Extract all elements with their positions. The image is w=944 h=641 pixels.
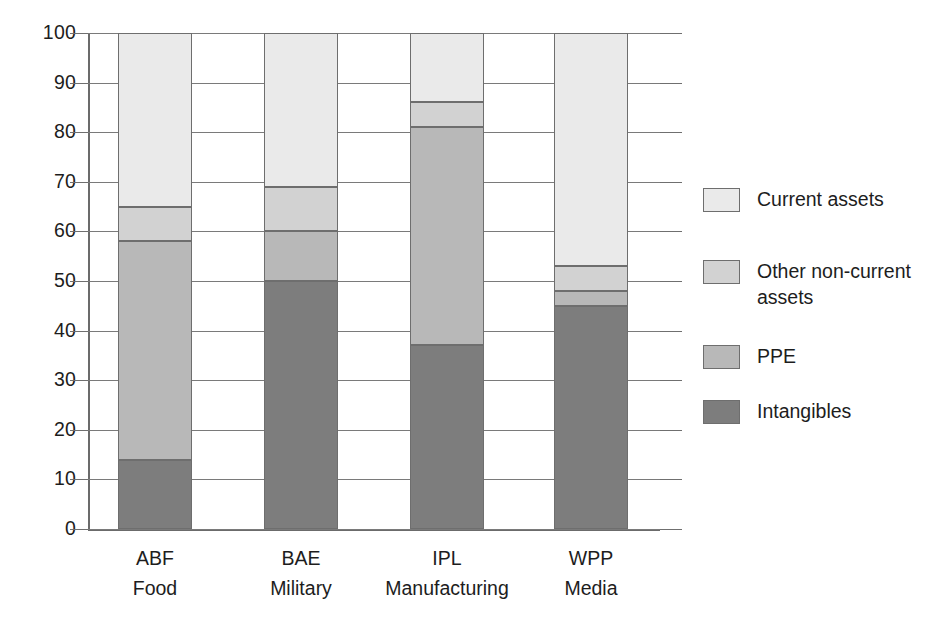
legend-label: Other non-current assets xyxy=(757,258,929,310)
y-tick-label: 30 xyxy=(18,370,76,390)
bar-column[interactable] xyxy=(118,33,192,529)
bar-segment[interactable] xyxy=(554,33,628,266)
y-tick-mark-inner xyxy=(70,479,88,480)
y-tick-label: 60 xyxy=(18,222,76,242)
bar-column[interactable] xyxy=(554,33,628,529)
bar-segment[interactable] xyxy=(264,231,338,281)
bar-segment[interactable] xyxy=(118,207,192,242)
legend-label: Intangibles xyxy=(757,398,851,424)
bar-segment[interactable] xyxy=(410,127,484,345)
y-tick-mark xyxy=(660,33,682,34)
legend-swatch xyxy=(703,345,740,369)
bar-segment[interactable] xyxy=(410,33,484,102)
y-tick-label: 50 xyxy=(18,271,76,291)
bar-column[interactable] xyxy=(410,33,484,529)
bar-segment[interactable] xyxy=(118,460,192,529)
y-tick-mark-inner xyxy=(70,83,88,84)
stacked-bar-chart: 1009080706050403020100 ABFFoodBAEMilitar… xyxy=(0,0,944,641)
bar-segment[interactable] xyxy=(118,241,192,459)
y-tick-mark xyxy=(660,479,682,480)
legend-label: PPE xyxy=(757,343,796,369)
y-tick-mark xyxy=(660,132,682,133)
bars-layer xyxy=(88,33,660,531)
bar-column[interactable] xyxy=(264,33,338,529)
legend-item[interactable]: PPE xyxy=(703,343,796,369)
y-axis-tick-labels: 1009080706050403020100 xyxy=(18,33,76,531)
y-tick-mark xyxy=(660,231,682,232)
y-tick-mark xyxy=(660,281,682,282)
bar-segment[interactable] xyxy=(554,306,628,529)
y-tick-label: 20 xyxy=(18,420,76,440)
y-tick-mark xyxy=(660,430,682,431)
legend-label: Current assets xyxy=(757,186,884,212)
y-tick-mark xyxy=(660,182,682,183)
y-tick-mark-inner xyxy=(70,231,88,232)
bar-segment[interactable] xyxy=(118,33,192,207)
legend-item[interactable]: Current assets xyxy=(703,186,884,212)
bar-segment[interactable] xyxy=(554,291,628,306)
x-axis-category-sector: Media xyxy=(496,573,686,603)
bar-segment[interactable] xyxy=(410,345,484,529)
y-tick-mark-inner xyxy=(70,281,88,282)
bar-segment[interactable] xyxy=(264,33,338,187)
y-tick-label: 100 xyxy=(18,23,76,43)
y-tick-mark-inner xyxy=(70,33,88,34)
legend-swatch xyxy=(703,260,740,284)
bar-segment[interactable] xyxy=(264,187,338,232)
y-tick-mark-inner xyxy=(70,380,88,381)
y-tick-label: 0 xyxy=(18,519,76,539)
y-tick-label: 90 xyxy=(18,73,76,93)
y-tick-mark-inner xyxy=(70,132,88,133)
x-axis-category-labels: ABFFoodBAEMilitaryIPLManufacturingWPPMed… xyxy=(88,543,660,623)
bar-segment[interactable] xyxy=(264,281,338,529)
y-tick-label: 80 xyxy=(18,122,76,142)
legend-swatch xyxy=(703,188,740,212)
y-tick-mark xyxy=(660,83,682,84)
y-tick-mark xyxy=(660,529,682,530)
bar-segment[interactable] xyxy=(554,266,628,291)
y-tick-mark-inner xyxy=(70,182,88,183)
legend-item[interactable]: Intangibles xyxy=(703,398,851,424)
y-tick-mark xyxy=(660,380,682,381)
y-tick-mark-inner xyxy=(70,529,88,530)
y-tick-label: 70 xyxy=(18,172,76,192)
x-axis-category: WPPMedia xyxy=(496,543,686,603)
y-tick-label: 40 xyxy=(18,321,76,341)
y-tick-mark xyxy=(660,331,682,332)
x-axis-category-name: WPP xyxy=(496,543,686,573)
y-tick-mark-inner xyxy=(70,430,88,431)
bar-segment[interactable] xyxy=(410,102,484,127)
legend-swatch xyxy=(703,400,740,424)
plot-area xyxy=(88,33,660,531)
y-tick-label: 10 xyxy=(18,470,76,490)
y-tick-mark-inner xyxy=(70,331,88,332)
legend-item[interactable]: Other non-current assets xyxy=(703,258,929,310)
